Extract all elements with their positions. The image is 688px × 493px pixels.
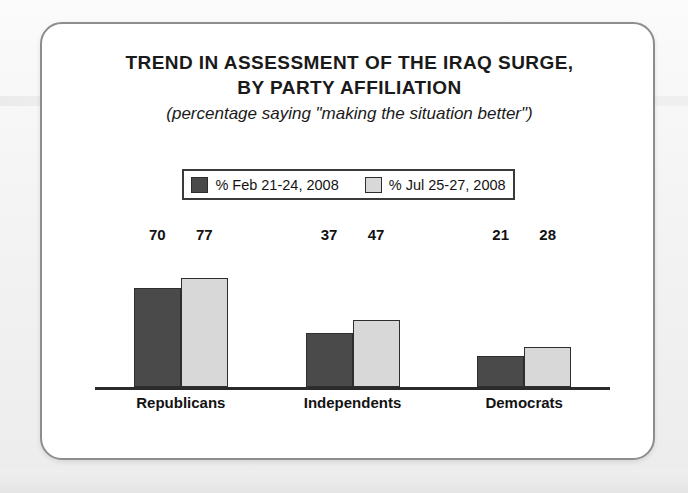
chart-title-line-2: BY PARTY AFFILIATION [42,75,657,100]
bar-group-republicans: 70 77 [95,247,267,387]
background-streak-bottom [0,470,688,493]
chart-subtitle: (percentage saying "making the situation… [42,100,657,128]
bar-independents-feb[interactable] [306,333,353,387]
legend-label-jul: % Jul 25-27, 2008 [389,177,506,193]
bar-republicans-feb[interactable] [134,288,181,387]
chart-card: TREND IN ASSESSMENT OF THE IRAQ SURGE, B… [40,22,655,460]
bar-value-democrats-feb: 21 [492,226,509,243]
legend-label-feb: % Feb 21-24, 2008 [215,177,338,193]
title-block: TREND IN ASSESSMENT OF THE IRAQ SURGE, B… [42,50,657,128]
bar-wrap-republicans-jul[interactable]: 77 [181,247,228,387]
legend-swatch-jul [365,177,382,193]
category-label-democrats: Democrats [438,392,610,414]
bar-groups: 70 77 37 47 21 [95,247,610,387]
legend-item-feb[interactable]: % Feb 21-24, 2008 [191,177,338,193]
legend-item-jul[interactable]: % Jul 25-27, 2008 [365,177,506,193]
bar-wrap-independents-feb[interactable]: 37 [306,247,353,387]
chart-title-line-1: TREND IN ASSESSMENT OF THE IRAQ SURGE, [42,50,657,75]
bar-value-democrats-jul: 28 [539,226,556,243]
bar-independents-jul[interactable] [353,320,400,387]
bar-value-independents-jul: 47 [368,226,385,243]
bar-group-democrats: 21 28 [438,247,610,387]
bar-value-independents-feb: 37 [321,226,338,243]
x-axis-line [95,387,610,390]
bar-wrap-democrats-feb[interactable]: 21 [477,247,524,387]
bar-wrap-independents-jul[interactable]: 47 [353,247,400,387]
plot-area: 70 77 37 47 21 [95,224,610,414]
bar-value-republicans-feb: 70 [149,226,166,243]
bar-democrats-jul[interactable] [524,347,571,387]
category-label-independents: Independents [267,392,439,414]
category-labels: Republicans Independents Democrats [95,392,610,414]
bar-republicans-jul[interactable] [181,278,228,387]
category-label-republicans: Republicans [95,392,267,414]
chart-legend: % Feb 21-24, 2008 % Jul 25-27, 2008 [182,169,515,200]
legend-swatch-feb [191,177,208,193]
bar-wrap-democrats-jul[interactable]: 28 [524,247,571,387]
bar-value-republicans-jul: 77 [196,226,213,243]
bar-democrats-feb[interactable] [477,356,524,387]
bar-wrap-republicans-feb[interactable]: 70 [134,247,181,387]
bar-group-independents: 37 47 [267,247,439,387]
